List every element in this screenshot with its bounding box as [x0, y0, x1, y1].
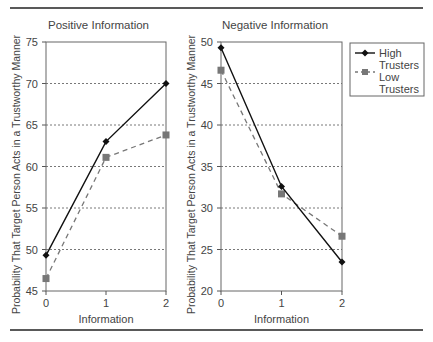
positive-information-chart: Positive Information45505560657075012Inf…	[10, 19, 170, 325]
y-tick-label: 50	[26, 244, 38, 256]
low-trusters-marker	[103, 154, 110, 161]
y-tick-label: 45	[26, 285, 38, 297]
y-tick-label: 40	[201, 119, 213, 131]
x-axis-label: Information	[78, 313, 133, 325]
figure: Positive Information45505560657075012Inf…	[0, 0, 433, 342]
chart-title: Negative Information	[222, 19, 328, 31]
legend-low-label: Low	[379, 71, 399, 83]
x-axis-label: Information	[254, 313, 309, 325]
negative-information-chart: Negative Information20253035404550012Inf…	[185, 19, 346, 325]
y-tick-label: 60	[26, 161, 38, 173]
y-axis-label: Probability That Target Person Acts in a…	[185, 34, 197, 314]
y-tick-label: 70	[26, 78, 38, 90]
low-trusters-marker	[278, 190, 285, 197]
legend: HighTrustersLowTrusters	[350, 43, 424, 96]
x-tick-label: 0	[43, 297, 49, 309]
svg-text:Trusters: Trusters	[379, 59, 419, 71]
high-trusters-line	[46, 84, 166, 256]
legend-high-label: High	[379, 47, 402, 59]
low-trusters-marker	[339, 233, 346, 240]
high-trusters-marker	[218, 44, 225, 51]
y-tick-label: 25	[201, 244, 213, 256]
x-tick-label: 0	[218, 297, 224, 309]
x-tick-label: 2	[163, 297, 169, 309]
high-trusters-line	[221, 48, 342, 262]
x-tick-label: 1	[278, 297, 284, 309]
high-trusters-marker	[43, 252, 50, 259]
y-tick-label: 55	[26, 202, 38, 214]
low-trusters-marker	[43, 275, 50, 282]
y-tick-label: 35	[201, 161, 213, 173]
y-tick-label: 75	[26, 36, 38, 48]
y-tick-label: 50	[201, 36, 213, 48]
x-tick-label: 1	[103, 297, 109, 309]
y-tick-label: 20	[201, 285, 213, 297]
low-trusters-marker	[163, 131, 170, 138]
svg-text:Trusters: Trusters	[379, 83, 419, 95]
y-tick-label: 30	[201, 202, 213, 214]
chart-title: Positive Information	[48, 19, 149, 31]
low-trusters-marker	[218, 67, 225, 74]
low-trusters-line	[221, 70, 342, 236]
y-tick-label: 65	[26, 119, 38, 131]
y-axis-label: Probability That Target Person Acts in a…	[10, 34, 22, 314]
x-tick-label: 2	[339, 297, 345, 309]
legend-low-marker	[362, 69, 368, 75]
y-tick-label: 45	[201, 78, 213, 90]
